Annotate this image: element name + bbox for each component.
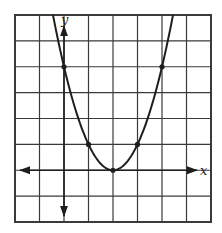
graph: x y xyxy=(0,0,222,233)
grid-lines xyxy=(15,15,211,222)
y-axis-label: y xyxy=(60,12,69,27)
x-axis-label: x xyxy=(200,163,208,178)
data-point xyxy=(61,64,66,69)
data-point xyxy=(159,64,164,69)
data-point xyxy=(86,142,91,147)
data-point xyxy=(110,168,115,173)
data-point xyxy=(135,142,140,147)
